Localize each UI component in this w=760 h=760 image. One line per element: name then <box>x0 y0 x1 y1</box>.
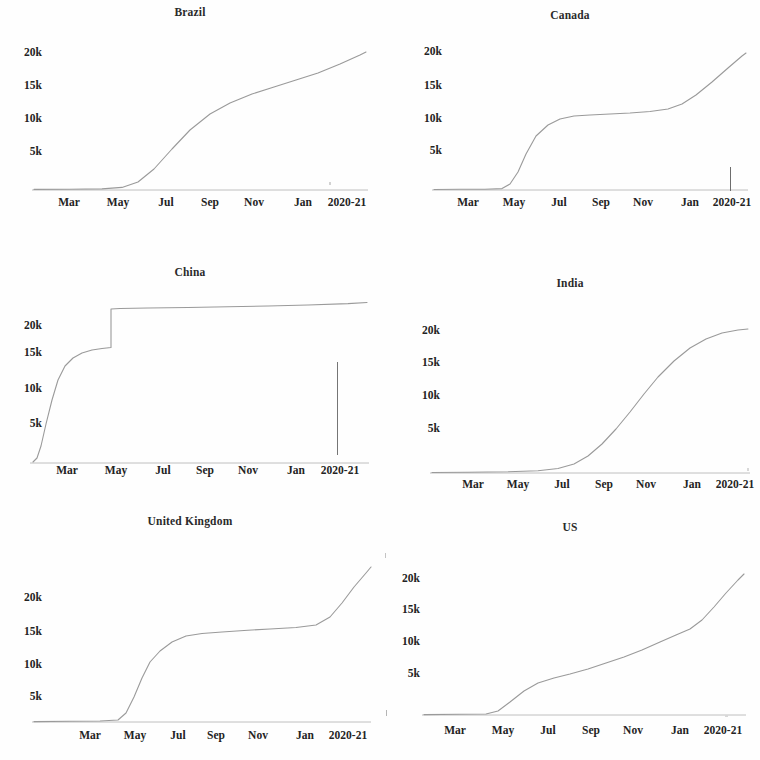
series-line-brazil <box>34 52 366 189</box>
x-tick-label: May <box>503 196 525 208</box>
line-chart-india <box>428 305 753 475</box>
line-chart-uk <box>30 545 375 725</box>
x-tick-label: Mar <box>56 464 78 476</box>
x-tick-label: Nov <box>248 729 268 741</box>
x-tick-label: Jan <box>294 196 312 208</box>
series-line-uk <box>34 567 371 722</box>
series-line-india <box>432 329 748 473</box>
x-tick-label: May <box>124 729 146 741</box>
scan-speck <box>725 715 728 717</box>
x-tick-label: Mar <box>58 196 80 208</box>
x-tick-label: May <box>105 464 127 476</box>
scan-speck <box>385 553 386 558</box>
chart-panel-brazil: Brazil 20k 15k 10k 5k Mar May Jul Sep No… <box>0 0 380 215</box>
x-tick-label: Mar <box>462 478 484 490</box>
y-tick-label: 15k <box>380 603 420 615</box>
plot-area-brazil <box>30 30 370 192</box>
x-tick-label: Sep <box>582 724 600 736</box>
x-tick-label: Nov <box>244 196 264 208</box>
x-tick-label: Sep <box>196 464 214 476</box>
x-tick-label: Jul <box>155 464 170 476</box>
x-tick-label: Mar <box>444 724 466 736</box>
plot-area-india <box>428 305 753 475</box>
x-tick-label: 2020-21 <box>716 478 754 490</box>
series-line-us <box>424 574 744 715</box>
panel-title-united-kingdom: United Kingdom <box>0 515 380 527</box>
x-tick-label: May <box>507 478 529 490</box>
x-tick-label: Sep <box>207 729 225 741</box>
x-tick-label: Mar <box>457 196 479 208</box>
line-chart-us <box>420 550 750 720</box>
plot-area-us <box>420 550 750 720</box>
x-tick-label: Jul <box>554 478 569 490</box>
series-line-canada <box>434 53 746 190</box>
x-tick-label: Jul <box>158 196 173 208</box>
x-tick-label: May <box>107 196 129 208</box>
chart-panel-us: US 20k 15k 10k 5k Mar May Jul Sep Nov Ja… <box>380 505 760 760</box>
x-tick-label: Jan <box>287 464 305 476</box>
y-tick-label: 5k <box>380 667 420 679</box>
panel-title-us: US <box>380 521 760 533</box>
line-chart-china <box>28 290 373 465</box>
series-line-china <box>33 303 367 463</box>
scan-speck <box>747 468 749 471</box>
axis-origin-tick <box>386 710 387 716</box>
chart-panel-india: India 20k 15k 10k 5k Mar May Jul Sep Nov… <box>380 265 760 495</box>
x-tick-label: 2020-21 <box>328 196 366 208</box>
panel-title-india: India <box>380 277 760 289</box>
x-tick-label: 2020-21 <box>321 464 359 476</box>
x-tick-label: Nov <box>636 478 656 490</box>
x-tick-label: Mar <box>79 729 101 741</box>
plot-area-china <box>28 290 373 465</box>
line-chart-brazil <box>30 30 370 192</box>
scan-speck <box>329 182 331 185</box>
y-tick-label: 10k <box>380 635 420 647</box>
x-tick-label: Jan <box>671 724 689 736</box>
x-tick-label: Jan <box>681 196 699 208</box>
x-tick-label: Jul <box>551 196 566 208</box>
x-tick-label: Nov <box>238 464 258 476</box>
x-tick-label: Jan <box>683 478 701 490</box>
x-tick-label: May <box>492 724 514 736</box>
chart-panel-canada: Canada 20k 15k 10k 5k Mar May Jul Sep No… <box>380 0 760 215</box>
panel-title-brazil: Brazil <box>0 6 380 18</box>
x-tick-label: 2020-21 <box>713 196 751 208</box>
line-chart-canada <box>430 30 750 192</box>
chart-panel-china: China 20k 15k 10k 5k Mar May Jul Sep Nov… <box>0 255 380 490</box>
x-tick-label: Nov <box>633 196 653 208</box>
x-tick-label: Sep <box>595 478 613 490</box>
x-tick-label: Nov <box>623 724 643 736</box>
plot-area-uk <box>30 545 375 725</box>
x-tick-label: Sep <box>592 196 610 208</box>
panel-title-canada: Canada <box>380 9 760 21</box>
x-tick-label: 2020-21 <box>329 729 367 741</box>
scan-artifact-vertical-line <box>337 362 338 455</box>
panel-title-china: China <box>0 266 380 278</box>
plot-area-canada <box>430 30 750 192</box>
x-tick-label: Sep <box>201 196 219 208</box>
chart-panel-united-kingdom: United Kingdom 20k 15k 10k 5k Mar May Ju… <box>0 505 380 760</box>
x-tick-label: Jan <box>296 729 314 741</box>
y-tick-label: 20k <box>380 572 420 584</box>
x-tick-label: 2020-21 <box>704 724 742 736</box>
x-tick-label: Jul <box>170 729 185 741</box>
x-tick-label: Jul <box>540 724 555 736</box>
scan-artifact-vertical-line <box>730 167 731 191</box>
